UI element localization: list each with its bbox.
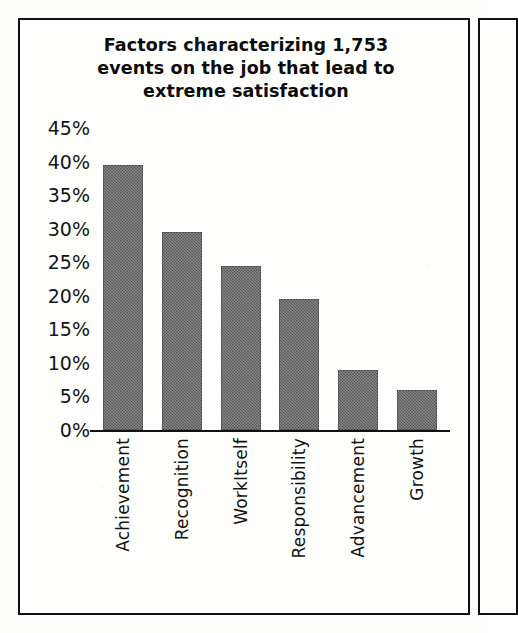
y-axis-tick-label: 5% [32, 385, 90, 407]
y-axis-tick-label: 40% [32, 151, 90, 173]
x-label-slot: Responsibility [279, 438, 319, 603]
x-axis-label-achievement: Achievement [113, 438, 133, 552]
bar-slot [162, 128, 202, 430]
x-axis-label-responsibility: Responsibility [289, 438, 309, 558]
bar-workitself[interactable] [221, 266, 261, 430]
y-axis-tick-label: 25% [32, 251, 90, 273]
bar-series [94, 128, 446, 430]
adjacent-figure-panel-sliver [478, 18, 518, 615]
y-axis-tick-label: 15% [32, 318, 90, 340]
y-axis-tick-label: 45% [32, 117, 90, 139]
x-axis-label-advancement: Advancement [348, 438, 368, 558]
y-axis-tick-label: 0% [32, 419, 90, 441]
y-axis: 45%40%35%30%25%20%15%10%5%0% [28, 20, 90, 617]
bar-slot [397, 128, 437, 430]
x-label-slot: Advancement [338, 438, 378, 603]
bar-recognition[interactable] [162, 232, 202, 430]
bar-responsibility[interactable] [279, 299, 319, 430]
x-label-slot: Growth [397, 438, 437, 603]
figure-panel: Factors characterizing 1,753 events on t… [18, 18, 470, 615]
x-axis-baseline [90, 430, 450, 432]
x-axis-label-workitself: WorkItself [231, 438, 251, 525]
x-axis-category-labels: AchievementRecognitionWorkItselfResponsi… [94, 438, 446, 608]
x-label-slot: Achievement [103, 438, 143, 603]
plot-area: 45%40%35%30%25%20%15%10%5%0% Achievement… [20, 20, 472, 617]
x-axis-label-recognition: Recognition [172, 438, 192, 540]
bar-growth[interactable] [397, 390, 437, 430]
bar-slot [103, 128, 143, 430]
x-label-slot: WorkItself [221, 438, 261, 603]
y-axis-tick-label: 35% [32, 184, 90, 206]
bar-advancement[interactable] [338, 370, 378, 430]
bar-achievement[interactable] [103, 165, 143, 430]
bar-slot [279, 128, 319, 430]
y-axis-tick-label: 20% [32, 285, 90, 307]
bar-slot [338, 128, 378, 430]
y-axis-tick-label: 30% [32, 218, 90, 240]
y-axis-tick-label: 10% [32, 352, 90, 374]
x-axis-label-growth: Growth [407, 438, 427, 501]
bar-slot [221, 128, 261, 430]
x-label-slot: Recognition [162, 438, 202, 603]
